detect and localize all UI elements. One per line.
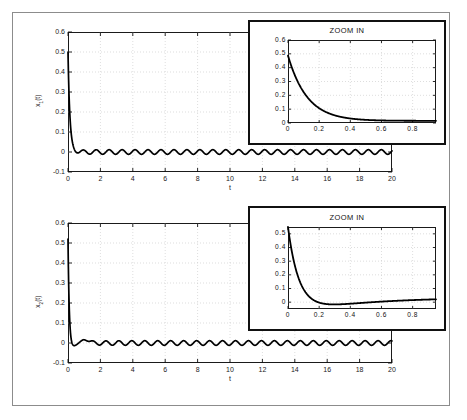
bottom-inset-data-curve: [288, 227, 436, 304]
xtick-label: 0.8: [399, 125, 427, 132]
ytick-label: 0.3: [269, 257, 286, 264]
ytick-label: 0.4: [269, 243, 286, 250]
xtick-label: 0: [54, 175, 82, 182]
ytick-label: 0.5: [48, 239, 65, 246]
xtick-label: 12: [248, 366, 276, 373]
ytick-label: 0.6: [48, 219, 65, 226]
xtick-label: 0.6: [367, 311, 395, 318]
ytick-label: 0.3: [269, 77, 286, 84]
top-inset-box: ZOOM IN 0.60.50.40.30.20.10 00.20.40.60.…: [248, 20, 446, 145]
xtick-label: 8: [184, 175, 212, 182]
xtick-label: 10: [216, 175, 244, 182]
xtick-label: 4: [119, 175, 147, 182]
xtick-label: 2: [86, 366, 114, 373]
xtick-label: 14: [281, 175, 309, 182]
top-panel-xlabel: t: [205, 184, 255, 191]
ytick-label: 0.2: [48, 299, 65, 306]
xtick-label: 8: [184, 366, 212, 373]
top-inset-data-curve: [288, 56, 436, 121]
ytick-label: 0.4: [48, 68, 65, 75]
xtick-label: 16: [313, 175, 341, 182]
ytick-label: 0.1: [48, 319, 65, 326]
top-inset-gridlines: [288, 40, 436, 123]
ytick-label: 0.1: [48, 128, 65, 135]
ytick-label: 0.5: [48, 48, 65, 55]
xtick-label: 16: [313, 366, 341, 373]
xtick-label: 4: [119, 366, 147, 373]
ytick-label: -0.1: [48, 359, 65, 366]
ytick-label: 0.1: [269, 284, 286, 291]
xtick-label: 20: [378, 366, 406, 373]
ytick-label: -0.1: [48, 168, 65, 175]
bottom-inset-box: ZOOM IN 0.50.40.30.20.10 00.20.40.60.8: [248, 206, 446, 331]
ytick-label: 0.6: [48, 28, 65, 35]
xtick-label: 0.4: [336, 125, 364, 132]
ytick-label: 0.2: [269, 270, 286, 277]
bottom-panel: x2(t) 0.60.50.40.30.20.10-0.1 0246810121…: [0, 205, 467, 410]
xtick-label: 10: [216, 366, 244, 373]
ytick-label: 0.5: [269, 229, 286, 236]
xtick-label: 0.8: [399, 311, 427, 318]
xtick-label: 18: [346, 175, 374, 182]
ytick-label: 0: [269, 298, 286, 305]
ytick-label: 0.1: [269, 105, 286, 112]
xtick-label: 12: [248, 175, 276, 182]
top-inset-tickmarks: [288, 40, 436, 123]
xtick-label: 20: [378, 175, 406, 182]
xtick-label: 18: [346, 366, 374, 373]
xtick-label: 0.2: [305, 311, 333, 318]
figure-canvas: x1(t) 0.60.50.40.30.20.10-0.1 0246810121…: [0, 0, 467, 420]
xtick-label: 6: [151, 175, 179, 182]
ytick-label: 0.5: [269, 49, 286, 56]
xtick-label: 14: [281, 366, 309, 373]
ytick-label: 0.4: [269, 63, 286, 70]
bottom-panel-xlabel: t: [205, 375, 255, 382]
ytick-label: 0.2: [269, 91, 286, 98]
xtick-label: 2: [86, 175, 114, 182]
xtick-label: 0.4: [336, 311, 364, 318]
xtick-label: 0: [54, 366, 82, 373]
ytick-label: 0: [48, 339, 65, 346]
xtick-label: 0: [274, 311, 302, 318]
ytick-label: 0.2: [48, 108, 65, 115]
ytick-label: 0.3: [48, 88, 65, 95]
ytick-label: 0.3: [48, 279, 65, 286]
top-panel: x1(t) 0.60.50.40.30.20.10-0.1 0246810121…: [0, 0, 467, 205]
xtick-label: 0.2: [305, 125, 333, 132]
xtick-label: 6: [151, 366, 179, 373]
xtick-label: 0.6: [367, 125, 395, 132]
ytick-label: 0.6: [269, 36, 286, 43]
xtick-label: 0: [274, 125, 302, 132]
ytick-label: 0.4: [48, 259, 65, 266]
ytick-label: 0: [48, 148, 65, 155]
